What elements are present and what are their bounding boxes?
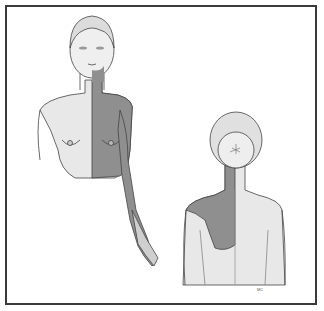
- artist-signature: MC: [257, 287, 263, 292]
- back-view-figure: [183, 112, 285, 285]
- referred-pain-illustration: [0, 0, 324, 311]
- front-view-figure: [38, 16, 158, 266]
